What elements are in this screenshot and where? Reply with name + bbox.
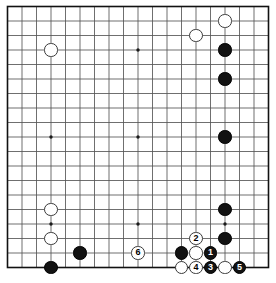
go-board-diagram: 261435 xyxy=(0,0,276,283)
go-stone-move-1: 1 xyxy=(204,246,217,259)
go-stone-black xyxy=(44,261,57,274)
go-stone-move-6: 6 xyxy=(131,246,144,259)
go-stone-black xyxy=(218,130,231,143)
go-stone-white xyxy=(189,246,202,259)
go-stone-white xyxy=(44,43,57,56)
go-stone-black xyxy=(218,43,231,56)
go-stone-black xyxy=(175,246,188,259)
go-stone-white xyxy=(218,14,231,27)
go-stone-move-2: 2 xyxy=(189,232,202,245)
go-stone-black xyxy=(218,232,231,245)
go-stone-move-3: 3 xyxy=(204,261,217,274)
go-stone-white xyxy=(44,203,57,216)
move-number-label: 5 xyxy=(237,262,242,271)
go-stone-move-4: 4 xyxy=(189,261,202,274)
go-stone-black xyxy=(218,72,231,85)
move-number-label: 2 xyxy=(193,233,198,242)
go-stone-white xyxy=(175,261,188,274)
move-number-label: 4 xyxy=(193,262,198,271)
move-number-label: 3 xyxy=(208,262,213,271)
go-stone-move-5: 5 xyxy=(233,261,246,274)
go-stone-layer: 261435 xyxy=(0,0,276,283)
go-stone-white xyxy=(218,261,231,274)
move-number-label: 1 xyxy=(208,248,213,257)
go-stone-white xyxy=(189,29,202,42)
go-stone-black xyxy=(218,203,231,216)
go-stone-black xyxy=(73,246,86,259)
move-number-label: 6 xyxy=(135,248,140,257)
go-stone-white xyxy=(44,232,57,245)
